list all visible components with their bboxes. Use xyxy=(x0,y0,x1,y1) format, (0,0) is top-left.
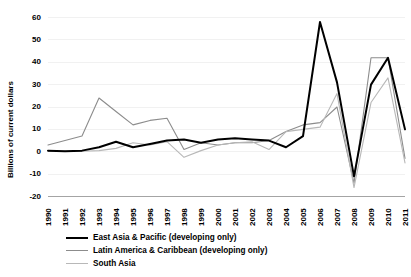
x-tick-label: 1994 xyxy=(112,208,121,226)
x-tick-label: 1992 xyxy=(78,208,87,226)
y-tick-label: -10 xyxy=(17,169,41,178)
x-tick-label: 2001 xyxy=(231,208,240,226)
legend-item: South Asia xyxy=(66,257,366,270)
y-tick-label: 50 xyxy=(17,35,41,44)
x-tick-label: 2002 xyxy=(248,208,257,226)
x-tick-label: 2007 xyxy=(333,208,342,226)
x-tick-label: 2003 xyxy=(265,208,274,226)
legend-label: Latin America & Caribbean (developing on… xyxy=(93,246,267,256)
legend-label: East Asia & Pacific (developing only) xyxy=(93,233,236,243)
y-axis-title: Billions of current dollars xyxy=(6,81,15,178)
x-tick-label: 1996 xyxy=(146,208,155,226)
x-tick-label: 1999 xyxy=(197,208,206,226)
y-tick-label: -20 xyxy=(17,192,41,201)
x-tick-label: 2008 xyxy=(350,208,359,226)
legend-item: East Asia & Pacific (developing only) xyxy=(66,231,366,244)
x-tick-label: 2010 xyxy=(384,208,393,226)
x-tick-label: 2006 xyxy=(316,208,325,226)
x-tick-label: 1991 xyxy=(61,208,70,226)
chart-legend: East Asia & Pacific (developing only)Lat… xyxy=(66,231,366,270)
y-tick-label: 60 xyxy=(17,13,41,22)
legend-item: Latin America & Caribbean (developing on… xyxy=(66,244,366,257)
x-tick-label: 2009 xyxy=(367,208,376,226)
y-tick-label: 40 xyxy=(17,57,41,66)
y-tick-label: 10 xyxy=(17,124,41,133)
legend-swatch-icon xyxy=(66,250,88,251)
legend-swatch-icon xyxy=(66,237,88,239)
x-tick-label: 2011 xyxy=(401,209,410,226)
x-tick-label: 1997 xyxy=(163,208,172,226)
x-tick-label: 1990 xyxy=(44,208,53,226)
legend-label: South Asia xyxy=(93,259,135,269)
series-line xyxy=(48,78,405,188)
x-tick-label: 2005 xyxy=(299,208,308,226)
line-chart: Billions of current dollars 605040302010… xyxy=(0,0,411,277)
x-tick-label: 2004 xyxy=(282,208,291,226)
x-tick-label: 1995 xyxy=(129,208,138,226)
y-tick-label: 20 xyxy=(17,102,41,111)
legend-swatch-icon xyxy=(66,263,88,264)
x-tick-label: 1998 xyxy=(180,208,189,226)
series-line xyxy=(48,22,405,176)
x-tick-label: 2000 xyxy=(214,208,223,226)
x-tick-label: 1993 xyxy=(95,208,104,226)
y-tick-label: 0 xyxy=(17,147,41,156)
y-tick-label: 30 xyxy=(17,80,41,89)
